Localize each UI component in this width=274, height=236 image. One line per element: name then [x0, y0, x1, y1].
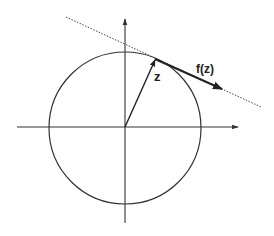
z-vector-arrow — [125, 60, 155, 127]
fz-label: f(z) — [196, 62, 214, 76]
diagram-canvas: z f(z) — [0, 0, 274, 236]
z-label: z — [154, 69, 161, 84]
